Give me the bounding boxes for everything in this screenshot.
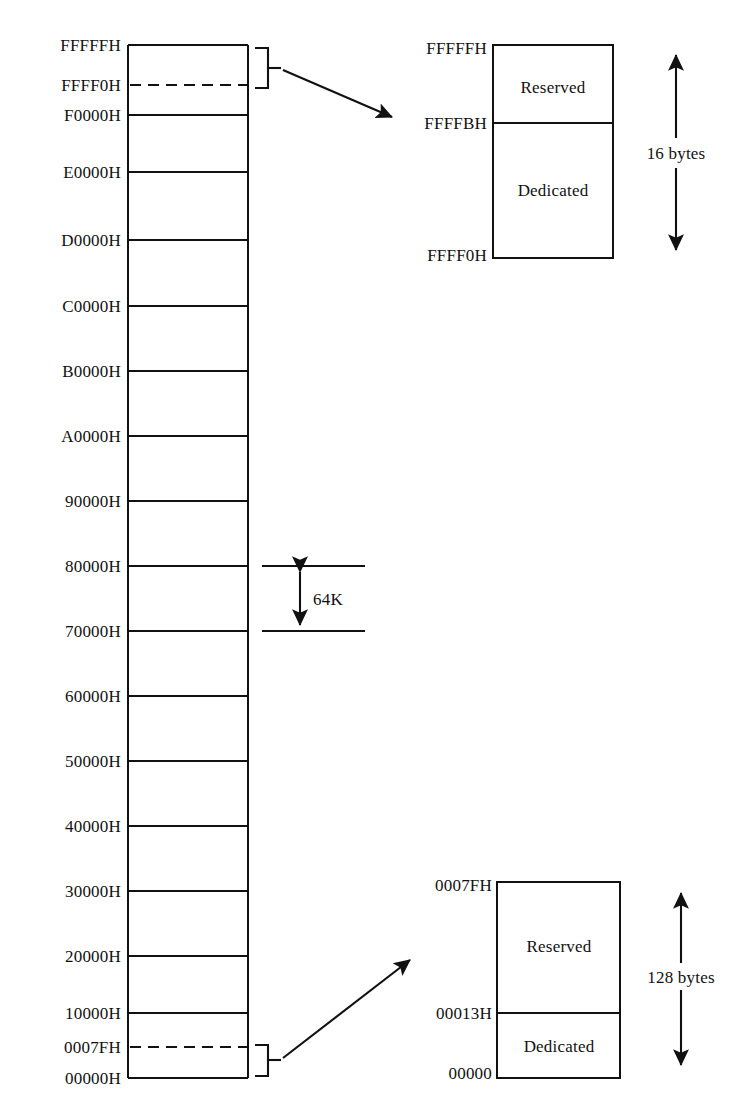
top-inset-region-reserved: Reserved	[521, 79, 586, 96]
bar-label-ffff0h: FFFF0H	[0, 77, 121, 94]
top-inset-label-bottom: FFFF0H	[340, 247, 487, 264]
bar-label-f0000h: F0000H	[0, 107, 121, 124]
top-callout-arrow	[283, 70, 392, 117]
bar-label-80000h: 80000H	[0, 558, 121, 575]
bar-label-0007fh: 0007FH	[0, 1039, 121, 1056]
top-expansion-brace	[255, 48, 281, 88]
bar-label-e0000h: E0000H	[0, 164, 121, 181]
bar-label-40000h: 40000H	[0, 818, 121, 835]
bottom-expansion-brace	[255, 1045, 281, 1076]
memory-bar-outline	[128, 45, 248, 1078]
memory-map-figure: FFFFFH FFFF0H F0000H E0000H D0000H C0000…	[0, 0, 752, 1119]
bottom-inset-label-divider: 00013H	[345, 1005, 492, 1022]
bar-label-60000h: 60000H	[0, 688, 121, 705]
bar-label-00000h: 00000H	[0, 1070, 121, 1087]
top-inset-region-dedicated: Dedicated	[518, 182, 589, 199]
top-inset-label-divider: FFFFBH	[340, 115, 487, 132]
bar-label-b0000h: B0000H	[0, 363, 121, 380]
bar-label-70000h: 70000H	[0, 623, 121, 640]
bottom-inset-label-bottom: 00000	[345, 1065, 492, 1082]
bar-label-c0000h: C0000H	[0, 298, 121, 315]
sixtyfour-k-label: 64K	[313, 591, 343, 608]
top-inset-size-label: 16 bytes	[647, 145, 706, 162]
bottom-inset-region-dedicated: Dedicated	[524, 1038, 595, 1055]
bottom-inset-region-reserved: Reserved	[527, 938, 592, 955]
top-inset-label-top: FFFFFH	[340, 40, 487, 57]
memory-bar-ticks	[128, 115, 248, 1013]
bar-label-90000h: 90000H	[0, 493, 121, 510]
bottom-inset-label-top: 0007FH	[345, 877, 492, 894]
bar-label-fffffh: FFFFFH	[0, 37, 121, 54]
bottom-inset-size-label: 128 bytes	[647, 969, 714, 986]
bar-label-30000h: 30000H	[0, 883, 121, 900]
bar-label-d0000h: D0000H	[0, 232, 121, 249]
bar-label-20000h: 20000H	[0, 948, 121, 965]
bar-label-50000h: 50000H	[0, 753, 121, 770]
bar-label-10000h: 10000H	[0, 1005, 121, 1022]
bar-label-a0000h: A0000H	[0, 428, 121, 445]
